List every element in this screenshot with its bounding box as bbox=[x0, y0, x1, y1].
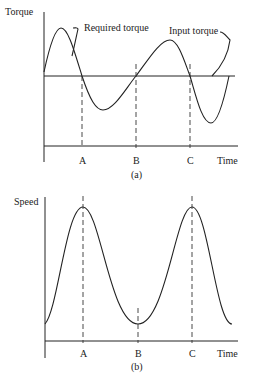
marker-b-label: B bbox=[133, 155, 140, 166]
caption-b: (b) bbox=[131, 361, 143, 373]
marker-b-label: B bbox=[135, 348, 142, 359]
speed-curve bbox=[45, 207, 232, 324]
torque-axis-label: Torque bbox=[5, 6, 34, 17]
speed-axis-label: Speed bbox=[14, 196, 38, 207]
speed-chart: Speed A B C Time (b) bbox=[14, 196, 238, 373]
input-torque-label: Input torque bbox=[169, 25, 219, 36]
torque-chart: Torque Required torque Input torque A B … bbox=[5, 6, 238, 181]
input-torque-leader bbox=[212, 32, 230, 76]
marker-a-label: A bbox=[80, 348, 88, 359]
torque-speed-diagram: Torque Required torque Input torque A B … bbox=[0, 0, 254, 385]
caption-a: (a) bbox=[131, 169, 142, 181]
time-axis-label: Time bbox=[217, 155, 238, 166]
marker-c-label: C bbox=[187, 155, 194, 166]
marker-c-label: C bbox=[189, 348, 196, 359]
marker-a-label: A bbox=[79, 155, 87, 166]
required-torque-label: Required torque bbox=[84, 22, 149, 33]
time-axis-label: Time bbox=[217, 348, 238, 359]
